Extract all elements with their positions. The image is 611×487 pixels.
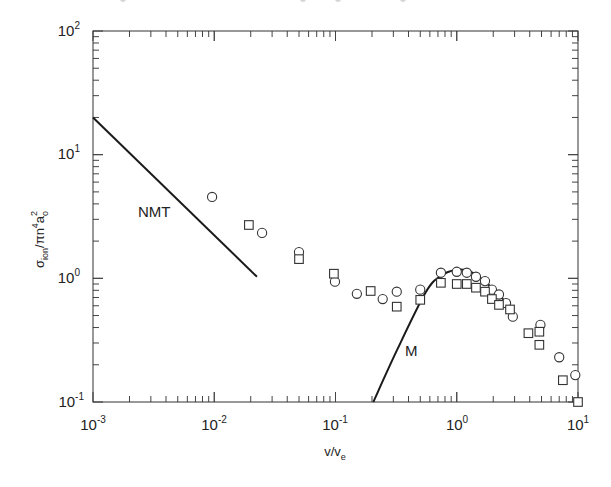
circle-marker (416, 285, 425, 294)
x-tick-label: 10-2 (201, 414, 227, 433)
square-marker (535, 327, 544, 336)
m-label: M (405, 342, 418, 359)
square-marker (535, 341, 544, 350)
circle-marker (436, 268, 445, 277)
y-tick-label: 101 (58, 143, 81, 162)
square-marker (559, 376, 568, 385)
circle-marker (378, 294, 387, 303)
circle-marker (462, 268, 471, 277)
x-axis-title: v/ve (324, 444, 346, 462)
y-tick-labels: 10-1 100 101 102 (58, 20, 85, 410)
square-marker (574, 398, 583, 407)
circle-marker (471, 272, 480, 281)
log-log-chart: 10-3 10-2 10-1 100 101 10-1 100 101 102 … (0, 0, 611, 487)
data-markers (208, 192, 583, 406)
x-tick-label: 10-3 (80, 414, 106, 433)
square-marker (506, 305, 515, 314)
nmt-label: NMT (138, 203, 171, 220)
square-marker (416, 296, 425, 305)
x-tick-label: 101 (567, 414, 590, 433)
square-marker (392, 302, 401, 311)
square-marker (524, 329, 533, 338)
x-tick-labels: 10-3 10-2 10-1 100 101 (80, 414, 589, 433)
circle-marker (452, 267, 461, 276)
square-marker (472, 283, 481, 292)
y-tick-label: 102 (58, 20, 81, 39)
x-tick-label: 100 (446, 414, 469, 433)
square-marker (437, 279, 446, 288)
square-marker (462, 280, 471, 289)
x-tick-label: 10-1 (322, 414, 348, 433)
square-marker (495, 301, 504, 310)
square-marker (245, 221, 254, 230)
square-marker (295, 255, 304, 264)
square-marker (452, 280, 461, 289)
nmt-curve (93, 117, 257, 276)
square-marker (366, 287, 375, 296)
square-marker (330, 269, 339, 278)
y-tick-label: 100 (58, 267, 81, 286)
circle-marker (352, 289, 361, 298)
circle-marker (392, 287, 401, 296)
circle-marker (555, 353, 564, 362)
circle-marker (257, 228, 266, 237)
y-axis-title: σion/πn4ao2 (29, 211, 50, 268)
circle-marker (208, 192, 217, 201)
circle-marker (571, 371, 580, 380)
y-tick-label: 10-1 (58, 391, 84, 410)
circle-marker (480, 276, 489, 285)
